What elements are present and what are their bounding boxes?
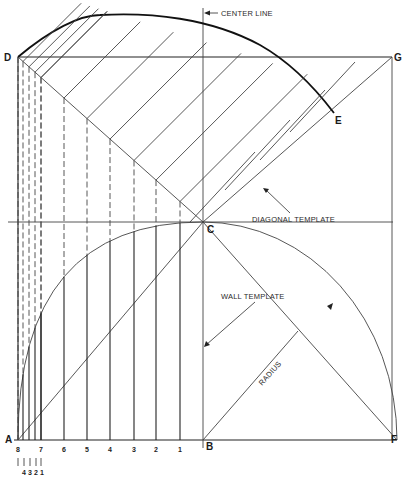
line-c-f bbox=[203, 222, 397, 440]
division-label-7: 7 bbox=[39, 446, 43, 453]
diagonal-template-ordinate bbox=[87, 32, 173, 118]
division-label-3: 3 bbox=[132, 446, 136, 453]
radius-arrowhead bbox=[327, 303, 333, 310]
sub-division-label-1: 1 bbox=[40, 469, 44, 476]
division-label-8: 8 bbox=[16, 446, 20, 453]
diagonal-template-ordinate bbox=[260, 90, 325, 160]
diagonal-template-ordinate bbox=[156, 63, 273, 180]
division-label-4: 4 bbox=[108, 446, 112, 453]
point-label-g: G bbox=[394, 52, 402, 63]
diagonal-template-ordinate bbox=[29, 6, 90, 67]
diagonal-template-ordinate bbox=[134, 53, 241, 160]
sub-division-label-3: 3 bbox=[28, 469, 32, 476]
line-c-g bbox=[203, 57, 392, 222]
wall-template-arrow bbox=[206, 302, 255, 345]
division-label-1: 1 bbox=[178, 446, 182, 453]
diagonal-template-ordinate bbox=[180, 74, 307, 201]
diagonal-template-curve bbox=[18, 14, 334, 113]
sub-division-label-4: 4 bbox=[22, 469, 26, 476]
center-line-label: CENTER LINE bbox=[221, 9, 273, 18]
division-label-6: 6 bbox=[62, 446, 66, 453]
diagonal-template-ordinate bbox=[23, 3, 81, 61]
groin-vault-template-diagram: D G E C A B F CENTER LINE DIAGONAL TEMPL… bbox=[0, 0, 403, 483]
diagonal-template-label: DIAGONAL TEMPLATE bbox=[252, 215, 335, 224]
diagonal-template-ordinate bbox=[64, 22, 140, 98]
diagonal-template-arrow bbox=[266, 190, 290, 213]
wall-template-label: WALL TEMPLATE bbox=[221, 292, 284, 301]
sub-division-label-2: 2 bbox=[34, 469, 38, 476]
radius-line bbox=[203, 331, 298, 440]
center-line-arrowhead bbox=[204, 11, 210, 16]
division-label-2: 2 bbox=[154, 446, 158, 453]
point-label-b: B bbox=[206, 441, 213, 452]
point-label-a: A bbox=[5, 434, 12, 445]
diagonal-template-ordinate bbox=[290, 62, 355, 132]
division-label-5: 5 bbox=[85, 446, 89, 453]
line-d-c bbox=[18, 57, 203, 222]
point-label-f: F bbox=[391, 434, 397, 445]
point-label-c: C bbox=[207, 224, 214, 235]
point-label-d: D bbox=[4, 52, 11, 63]
point-label-e: E bbox=[335, 115, 342, 126]
diagonal-template-ordinate bbox=[190, 152, 255, 222]
